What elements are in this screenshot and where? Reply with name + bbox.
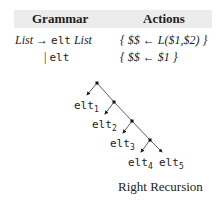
leaf-elt-4: elt4	[128, 157, 153, 173]
leaf-elt-2: elt2	[92, 119, 117, 135]
leaf-elt-1: elt1	[74, 100, 99, 116]
leaf-elt-5: elt5	[159, 157, 184, 173]
leaf-elt-3: elt3	[110, 138, 135, 154]
caption: Right Recursion	[118, 179, 203, 195]
parse-tree	[0, 0, 223, 203]
